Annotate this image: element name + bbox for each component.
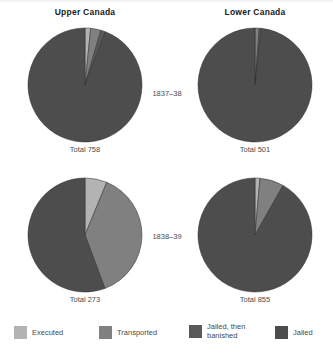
legend-item-transported: Transported <box>99 326 157 339</box>
column-title-upper-canada: Upper Canada <box>22 7 148 17</box>
pie-cell-upper-canada-1838-39: Total 273 <box>22 176 148 304</box>
pie-total-label: Total 758 <box>22 145 148 154</box>
period-label-1838-39: 1838–39 <box>145 232 189 241</box>
legend-item-jailed: Jailed <box>275 326 313 339</box>
pie-slice <box>198 28 312 142</box>
chart-legend: Executed Transported Jailed, then banish… <box>0 320 333 354</box>
legend-swatch-icon <box>275 326 288 339</box>
legend-label: Executed <box>32 328 63 337</box>
pie-chart-upper-canada-1837-38 <box>22 26 148 144</box>
pie-total-label: Total 501 <box>192 145 318 154</box>
pie-chart-lower-canada-1838-39 <box>192 176 318 294</box>
pie-cell-lower-canada-1837-38: Total 501 <box>192 26 318 154</box>
legend-item-executed: Executed <box>14 326 63 339</box>
pie-chart-upper-canada-1838-39 <box>22 176 148 294</box>
legend-swatch-icon <box>99 326 112 339</box>
top-edge-shading <box>0 0 333 3</box>
legend-item-jailed-then-banished: Jailed, then banished <box>189 322 245 340</box>
column-title-lower-canada: Lower Canada <box>192 7 318 17</box>
legend-swatch-icon <box>14 326 27 339</box>
legend-label: Transported <box>117 328 157 337</box>
pie-cell-lower-canada-1838-39: Total 855 <box>192 176 318 304</box>
pie-slice <box>28 28 142 142</box>
legend-label: Jailed <box>293 328 313 337</box>
period-label-1837-38: 1837–38 <box>145 89 189 98</box>
pie-cell-upper-canada-1837-38: Total 758 <box>22 26 148 154</box>
pie-chart-figure: Upper Canada Lower Canada 1837–38 1838–3… <box>0 0 333 357</box>
legend-label: Jailed, then banished <box>207 322 245 340</box>
legend-swatch-icon <box>189 325 202 338</box>
pie-total-label: Total 855 <box>192 295 318 304</box>
pie-total-label: Total 273 <box>22 295 148 304</box>
pie-slice <box>198 178 312 292</box>
pie-chart-lower-canada-1837-38 <box>192 26 318 144</box>
